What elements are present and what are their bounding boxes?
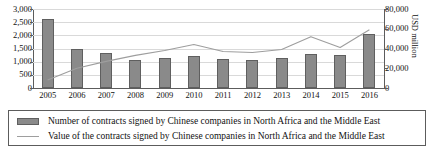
y-axis-right-tickmark [385,68,388,69]
x-axis-tick-label: 2014 [296,90,325,100]
x-axis-tick-label: 2013 [267,90,296,100]
line-series [33,9,384,88]
bar-swatch-icon [17,118,39,125]
x-axis-tick-label: 2012 [238,90,267,100]
y-axis-right-tickmark [385,29,388,30]
chart-figure: 05001,0001,5002,0002,5003,000 020,00040,… [0,0,442,158]
y-axis-left-tick: 0 [2,84,32,93]
y-axis-left-tick: 3,000 [2,5,32,14]
legend-item-line: Value of the contracts signed by Chinese… [9,129,425,144]
x-axis-tick-label: 2006 [62,90,91,100]
y-axis-left-tickmark [30,62,33,63]
x-axis-tick-label: 2005 [33,90,62,100]
legend-label-line: Value of the contracts signed by Chinese… [48,131,385,142]
y-axis-left-tickmark [30,49,33,50]
x-axis-tick-label: 2011 [209,90,238,100]
y-axis-left-tickmark [30,22,33,23]
y-axis-right-tickmark [385,88,388,89]
x-axis-tick-label: 2009 [150,90,179,100]
y-axis-left-tick: 2,500 [2,18,32,27]
y-axis-left-tickmark [30,9,33,10]
legend-label-bar: Number of contracts signed by Chinese co… [48,116,380,127]
y-axis-left-tick: 1,500 [2,44,32,53]
plot-area [33,9,384,88]
y-axis-left-tickmark [30,88,33,89]
x-axis-tick-label: 2007 [92,90,121,100]
x-axis-tick-label: 2008 [121,90,150,100]
x-axis-labels: 2005200620072008200920102011201220132014… [33,90,384,104]
y-axis-right-title: USD million [410,14,420,58]
chart-area: 05001,0001,5002,0002,5003,000 020,00040,… [0,0,442,108]
x-axis-tick-label: 2010 [179,90,208,100]
line-swatch-icon [17,133,39,140]
x-axis-line [33,88,385,89]
y-axis-right-tick: 20,000 [385,64,427,73]
y-axis-right-tickmark [385,9,388,10]
y-axis-right-tick: 80,000 [385,5,427,14]
y-axis-left-tick: 1,000 [2,57,32,66]
y-axis-left-tick: 2,000 [2,31,32,40]
legend-item-bar: Number of contracts signed by Chinese co… [9,114,425,129]
y-axis-left-tickmark [30,35,33,36]
y-axis-right-tickmark [385,49,388,50]
y-axis-right: 020,00040,00060,00080,000 [385,0,427,108]
x-axis-tick-label: 2016 [355,90,384,100]
chart-legend: Number of contracts signed by Chinese co… [8,110,426,146]
y-axis-right-tick: 0 [385,84,427,93]
y-axis-left-tickmark [30,75,33,76]
y-axis-left: 05001,0001,5002,0002,5003,000 [0,0,32,108]
x-axis-tick-label: 2015 [326,90,355,100]
y-axis-right-tick: 60,000 [385,24,427,33]
y-axis-right-tick: 40,000 [385,44,427,53]
y-axis-left-tick: 500 [2,70,32,79]
